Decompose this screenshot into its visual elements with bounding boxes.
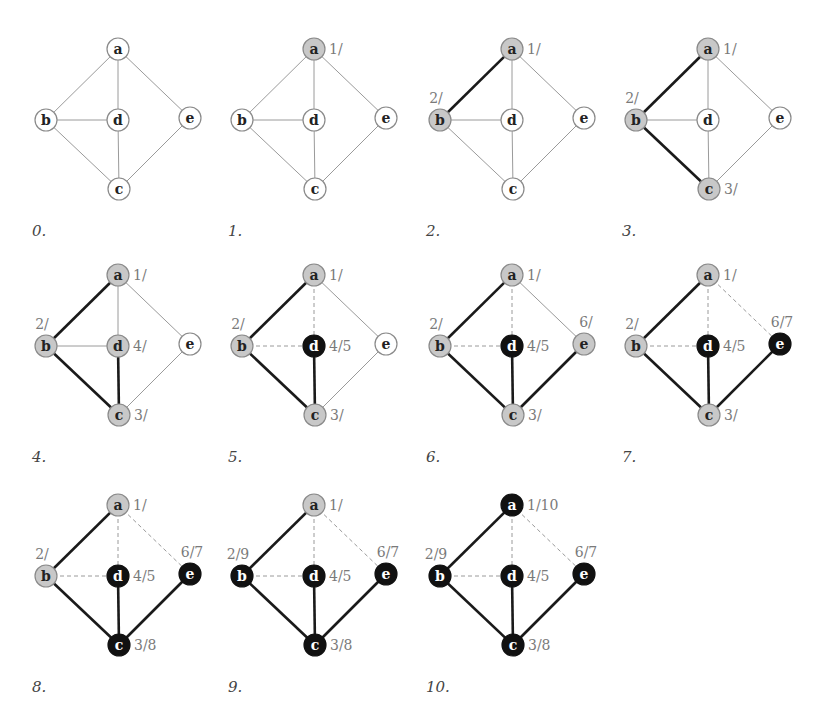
tree-edge-c-e [119, 574, 190, 645]
timestamp-label: 3/ [724, 181, 738, 197]
timestamp-label: 2/ [625, 90, 639, 106]
vertex-label: d [507, 112, 517, 128]
vertex-b: b2/ [625, 90, 647, 131]
vertex-label: a [507, 41, 516, 57]
step-number-label: 8. [32, 678, 46, 696]
timestamp-label: 1/ [329, 41, 343, 57]
timestamp-label: 1/ [723, 267, 737, 283]
timestamp-label: 6/7 [771, 314, 794, 330]
timestamp-label: 2/ [429, 90, 443, 106]
vertex-e: e6/7 [573, 544, 597, 585]
vertex-label: a [507, 267, 516, 283]
vertex-c: c3/8 [304, 634, 353, 656]
vertex-label: d [113, 112, 123, 128]
timestamp-label: 3/8 [330, 637, 353, 653]
vertex-c: c3/8 [502, 634, 551, 656]
step-number-label: 9. [228, 678, 242, 696]
back-edge-a-e [512, 505, 584, 574]
vertex-label: e [186, 566, 195, 582]
tree-edge-b-c [440, 346, 513, 415]
vertex-a: a [107, 38, 129, 60]
vertex-label: b [435, 338, 445, 354]
back-edge-a-e [314, 505, 386, 574]
vertex-a: a1/ [107, 264, 147, 286]
vertex-d: d [107, 109, 129, 131]
vertex-label: c [705, 181, 714, 197]
step-number-label: 7. [622, 448, 636, 466]
vertex-label: d [309, 112, 319, 128]
timestamp-label: 2/ [429, 316, 443, 332]
timestamp-label: 1/ [133, 497, 147, 513]
dfs-step-panel: a1/b2/9c3/8d4/5e6/79. [196, 456, 401, 696]
graph-diagram: a1/b2/c3/d4/5e6/7 [590, 226, 795, 441]
vertex-a: a1/ [697, 264, 737, 286]
vertex-label: e [580, 566, 589, 582]
vertex-b: b2/ [429, 90, 451, 131]
edge-a-b [242, 49, 314, 120]
step-number-label: 10. [426, 678, 450, 696]
vertex-b: b2/ [35, 316, 57, 357]
timestamp-label: 1/ [329, 267, 343, 283]
vertex-c: c [502, 178, 524, 200]
dfs-step-panel: a1/b2/c3/d4/5e5. [196, 226, 401, 466]
vertex-label: b [237, 338, 247, 354]
edge-c-e [119, 118, 190, 189]
vertex-c: c [108, 178, 130, 200]
tree-edge-a-b [636, 49, 708, 120]
vertex-a: a1/ [303, 494, 343, 516]
graph-diagram: a1/b2/cde [394, 0, 599, 215]
vertex-e: e [769, 107, 791, 129]
vertex-c: c3/ [108, 404, 148, 426]
vertex-label: c [115, 407, 124, 423]
edge-c-e [315, 344, 386, 415]
vertex-label: c [311, 407, 320, 423]
dfs-step-panel: a1/b2/c3/8d4/5e6/78. [0, 456, 205, 696]
vertex-label: d [309, 338, 319, 354]
vertex-d: d [303, 109, 325, 131]
edge-b-c [46, 120, 119, 189]
timestamp-label: 2/9 [227, 546, 250, 562]
vertex-b: b [231, 109, 253, 131]
tree-edge-b-c [242, 346, 315, 415]
vertex-label: b [435, 568, 445, 584]
tree-edge-b-c [46, 346, 119, 415]
vertex-label: e [186, 336, 195, 352]
vertex-label: c [509, 181, 518, 197]
vertex-label: e [186, 110, 195, 126]
edge-a-e [512, 49, 584, 118]
vertex-d: d4/5 [697, 335, 746, 357]
graph-diagram: a1/b2/c3/d4/e [0, 226, 205, 441]
vertex-b: b [35, 109, 57, 131]
vertex-a: a1/10 [501, 494, 558, 516]
timestamp-label: 6/7 [575, 544, 598, 560]
vertex-b: b2/9 [227, 546, 253, 587]
edge-b-c [440, 120, 513, 189]
vertex-label: e [382, 110, 391, 126]
vertex-c: c3/ [304, 404, 344, 426]
graph-diagram: a1/10b2/9c3/8d4/5e6/7 [394, 456, 599, 671]
edge-a-e [512, 275, 584, 344]
timestamp-label: 1/ [723, 41, 737, 57]
vertex-label: e [776, 336, 785, 352]
vertex-label: d [113, 338, 123, 354]
vertex-label: c [509, 407, 518, 423]
vertex-label: b [237, 112, 247, 128]
timestamp-label: 3/ [134, 407, 148, 423]
tree-edge-b-c [242, 576, 315, 645]
timestamp-label: 2/ [231, 316, 245, 332]
tree-edge-a-b [440, 505, 512, 576]
tree-edge-a-b [242, 275, 314, 346]
graph-diagram: a1/b2/9c3/8d4/5e6/7 [196, 456, 401, 671]
tree-edge-a-b [440, 49, 512, 120]
vertex-label: d [113, 568, 123, 584]
vertex-label: d [703, 338, 713, 354]
vertex-label: c [115, 637, 124, 653]
vertex-label: a [309, 267, 318, 283]
vertex-label: b [631, 112, 641, 128]
vertex-label: c [509, 637, 518, 653]
timestamp-label: 1/ [133, 267, 147, 283]
dfs-figure: abcde0.a1/bcde1.a1/b2/cde2.a1/b2/c3/de3.… [0, 0, 818, 710]
timestamp-label: 2/ [625, 316, 639, 332]
vertex-label: c [311, 181, 320, 197]
timestamp-label: 4/ [133, 338, 147, 354]
